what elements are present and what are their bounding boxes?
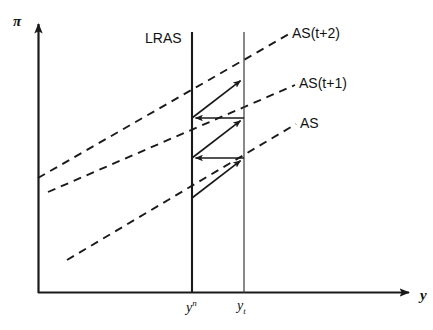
tick-label-y-t: yt <box>237 299 246 316</box>
as-curve-t-plus-2 <box>38 34 289 178</box>
as-curve-base <box>67 124 296 260</box>
as-label: AS <box>300 116 319 130</box>
as-curves-group <box>38 34 296 260</box>
lras-label: LRAS <box>145 31 182 45</box>
tick-label-y-natural-superscript: n <box>192 298 197 308</box>
diagram-canvas <box>0 0 433 330</box>
adjustment-diagonal-1 <box>192 161 241 198</box>
vertical-lines-group <box>192 32 244 293</box>
adjustment-diagonal-2 <box>192 121 241 158</box>
y-axis-label: π <box>13 14 21 29</box>
as-t-plus-2-label: AS(t+2) <box>292 26 340 40</box>
as-shift-diagram: π y LRAS AS(t+2) AS(t+1) AS yn yt <box>0 0 433 330</box>
x-axis-label: y <box>420 288 427 303</box>
tick-label-y-t-subscript: t <box>243 306 246 316</box>
tick-label-y-natural: yn <box>186 299 197 315</box>
as-t-plus-1-label: AS(t+1) <box>299 76 347 90</box>
